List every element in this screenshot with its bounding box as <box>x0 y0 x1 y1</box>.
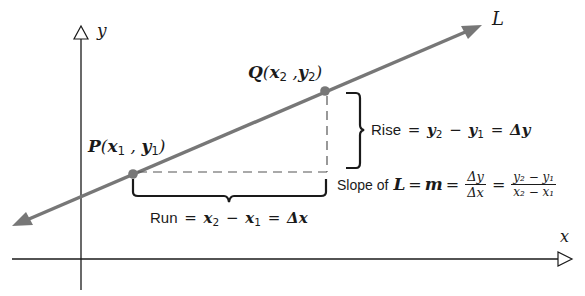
slope-fraction-coords: y₂ − y₁ x₂ − x₁ <box>511 171 556 198</box>
run-label: Run = x2 − x1 = Δx <box>150 210 308 227</box>
point-Q-label: Q(x2 ,y2) <box>248 64 322 84</box>
line-L-label: L <box>492 10 504 28</box>
slope-fraction-delta: Δy Δx <box>465 170 486 199</box>
y-axis-label: y <box>97 22 107 39</box>
rise-brace <box>346 93 364 168</box>
point-P <box>128 169 138 179</box>
x-axis-label: x <box>560 229 569 245</box>
run-brace <box>133 179 326 202</box>
point-Q <box>320 86 330 96</box>
point-P-label: P(x1 , y1) <box>88 138 165 158</box>
y-axis-arrow-icon <box>74 26 88 39</box>
slope-formula: Slope of L = m = Δy Δx = y₂ − y₁ x₂ − x₁ <box>337 170 559 199</box>
x-axis-arrow-icon <box>558 252 572 266</box>
rise-label: Rise = y2 − y1 = Δy <box>371 122 530 139</box>
